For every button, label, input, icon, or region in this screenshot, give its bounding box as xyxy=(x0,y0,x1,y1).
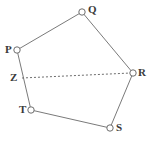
vertex-marker-q xyxy=(79,9,85,15)
vertex-markers xyxy=(14,9,136,131)
edge-p-q xyxy=(17,12,82,50)
edge-r-s xyxy=(110,73,133,128)
vertex-label-p: P xyxy=(5,44,12,55)
edge-t-p xyxy=(17,50,31,110)
edge-q-r xyxy=(82,12,133,73)
geometry-figure: P Q R S T Z xyxy=(0,0,152,141)
dashed-segments xyxy=(22,73,131,78)
vertex-marker-p xyxy=(14,47,20,53)
vertex-marker-r xyxy=(130,70,136,76)
vertex-label-r: R xyxy=(138,67,146,78)
vertex-marker-t xyxy=(28,107,34,113)
vertex-marker-s xyxy=(107,125,113,131)
vertex-label-s: S xyxy=(116,122,122,133)
vertex-label-q: Q xyxy=(88,4,97,15)
point-label-z: Z xyxy=(10,72,17,83)
vertex-label-t: T xyxy=(19,104,26,115)
edge-z-r-dashed xyxy=(22,73,131,78)
figure-canvas xyxy=(0,0,152,141)
edge-s-t xyxy=(31,110,110,128)
